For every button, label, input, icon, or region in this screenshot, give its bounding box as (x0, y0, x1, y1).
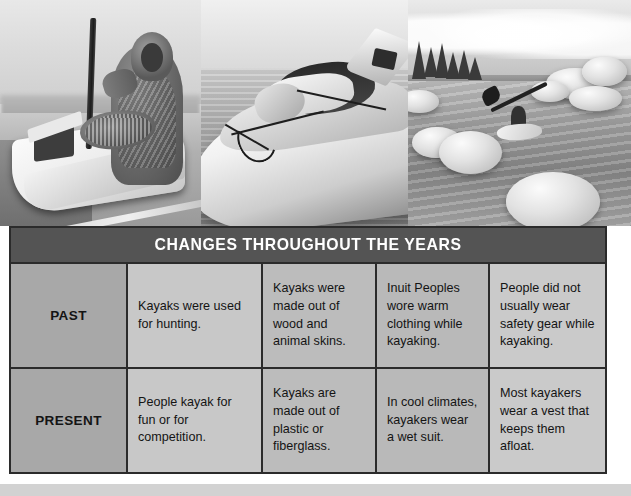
cell-text: Kayaks are made out of plastic or fiberg… (273, 385, 365, 457)
cell-present-use: People kayak for fun or for competition. (128, 369, 263, 472)
row-label-present: PRESENT (11, 369, 128, 472)
photo-historic-inuit-hunter-kayak (0, 0, 201, 226)
cell-text: People did not usually wear safety gear … (500, 280, 595, 352)
boulder (506, 172, 600, 226)
cell-past-safety: People did not usually wear safety gear … (490, 264, 605, 367)
boulder (439, 131, 501, 174)
cell-present-materials: Kayaks are made out of plastic or fiberg… (263, 369, 377, 472)
photo-3-scene (408, 0, 631, 226)
photo-modern-sea-kayak-closeup (201, 0, 408, 226)
cell-present-clothing: In cool climates, kayakers wear a wet su… (377, 369, 490, 472)
row-label-past: PAST (11, 264, 128, 367)
pine-tree (468, 57, 482, 80)
cell-past-materials: Kayaks were made out of wood and animal … (263, 264, 377, 367)
cell-past-use: Kayaks were used for hunting. (128, 264, 263, 367)
table-row-present: PRESENT People kayak for fun or for comp… (11, 369, 605, 472)
photo-2-scene (201, 0, 408, 226)
table-banner: CHANGES THROUGHOUT THE YEARS (11, 228, 605, 264)
cell-text: Inuit Peoples wore warm clothing while k… (387, 280, 478, 352)
row-label-text: PRESENT (35, 411, 102, 430)
table-row-past: PAST Kayaks were used for hunting. Kayak… (11, 264, 605, 369)
cell-text: Kayaks were made out of wood and animal … (273, 280, 365, 352)
photo-strip (0, 0, 631, 226)
footer-band (0, 484, 631, 496)
boulder (569, 86, 623, 111)
hunter-face (141, 43, 163, 72)
cell-past-clothing: Inuit Peoples wore warm clothing while k… (377, 264, 490, 367)
boulder (531, 81, 569, 101)
row-label-text: PAST (50, 306, 87, 325)
cell-text: Most kayakers wear a vest that keeps the… (500, 385, 595, 457)
cell-present-safety: Most kayakers wear a vest that keeps the… (490, 369, 605, 472)
cell-text: People kayak for fun or for competition. (138, 394, 251, 448)
boulder (582, 57, 627, 86)
photo-1-scene (0, 0, 201, 226)
changes-comparison-table: CHANGES THROUGHOUT THE YEARS PAST Kayaks… (9, 226, 607, 474)
table-title: CHANGES THROUGHOUT THE YEARS (155, 235, 462, 255)
cell-text: Kayaks were used for hunting. (138, 298, 251, 334)
cell-text: In cool climates, kayakers wear a wet su… (387, 394, 478, 448)
photo-kayaker-among-boulders (408, 0, 631, 226)
